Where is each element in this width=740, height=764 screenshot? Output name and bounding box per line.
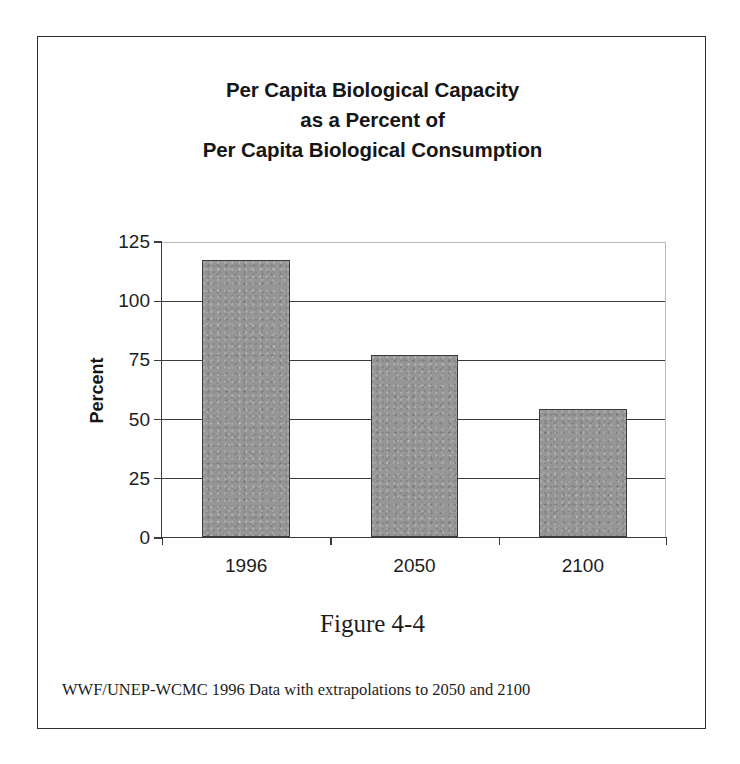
chart-title-line-2: as a Percent of <box>38 105 707 135</box>
bar-2100 <box>539 409 627 537</box>
bar-2050 <box>371 355 459 537</box>
y-axis-tick-50 <box>154 419 162 420</box>
x-axis-label-2100: 2100 <box>562 555 604 577</box>
chart-title-line-1: Per Capita Biological Capacity <box>38 75 707 105</box>
x-axis-tick-3 <box>666 537 667 545</box>
y-axis-tick-100 <box>154 301 162 302</box>
x-axis-tick-2 <box>499 537 500 545</box>
y-axis-title-label: Percent <box>87 357 108 423</box>
y-axis-label-25: 25 <box>129 468 150 490</box>
x-axis-label-1996: 1996 <box>225 555 267 577</box>
plot-area: 0255075100125 199620502100 <box>161 242 666 538</box>
y-axis-label-100: 100 <box>118 290 150 312</box>
y-axis-label-75: 75 <box>129 349 150 371</box>
figure-page: Per Capita Biological Capacity as a Perc… <box>0 0 740 764</box>
chart-title-line-3: Per Capita Biological Consumption <box>38 135 707 165</box>
y-axis-tick-125 <box>154 241 162 242</box>
y-axis-label-0: 0 <box>139 527 150 549</box>
x-axis-tick-1 <box>330 537 331 545</box>
bar-1996 <box>202 260 290 537</box>
y-axis-title: Percent <box>84 242 110 538</box>
y-axis-tick-25 <box>154 478 162 479</box>
y-axis-label-50: 50 <box>129 409 150 431</box>
y-axis-tick-0 <box>154 537 162 538</box>
x-axis-label-2050: 2050 <box>393 555 435 577</box>
figure-frame: Per Capita Biological Capacity as a Perc… <box>37 36 706 729</box>
y-axis-tick-75 <box>154 360 162 361</box>
chart-title: Per Capita Biological Capacity as a Perc… <box>38 75 707 165</box>
y-axis-label-125: 125 <box>118 231 150 253</box>
x-axis-tick-0 <box>162 537 163 545</box>
plot-wrapper: 0255075100125 199620502100 <box>161 242 666 538</box>
figure-footnote: WWF/UNEP-WCMC 1996 Data with extrapolati… <box>62 680 687 700</box>
figure-caption: Figure 4-4 <box>38 610 707 638</box>
